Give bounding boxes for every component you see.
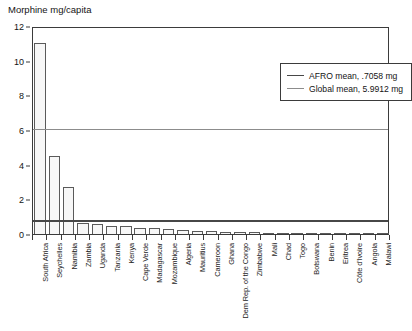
bar [220,232,231,234]
x-tick-label: Angola [371,243,379,265]
y-tick-mark [26,96,30,97]
y-tick-label: 8 [19,91,24,101]
bar [177,230,188,234]
bar [306,233,317,234]
bar [320,233,331,234]
x-tick-label: Mozambique [171,243,179,284]
bar [363,233,374,234]
x-tick-mark [175,235,176,240]
x-tick-mark [389,235,390,240]
y-tick-mark [26,131,30,132]
x-tick-mark [132,235,133,240]
x-tick-mark [146,235,147,240]
bar [163,229,174,234]
bar [291,233,302,234]
y-tick-mark [26,61,30,62]
x-tick-label: Kenya [128,243,136,263]
x-tick-label: Cape Verde [142,243,150,281]
legend-item-afro: AFRO mean, .7058 mg [287,69,403,82]
bar [34,43,45,234]
x-tick-label: South Africa [42,243,50,282]
bar [49,156,60,234]
bar [92,224,103,234]
x-tick-label: Namibia [71,243,79,269]
plot-area: AFRO mean, .7058 mg Global mean, 5.9912 … [32,27,389,235]
y-tick-label: 10 [14,57,24,67]
x-tick-mark [189,235,190,240]
x-tick-mark [103,235,104,240]
plot-inner [33,28,388,234]
y-tick-label: 6 [19,126,24,136]
global-mean-line [33,129,388,130]
afro-mean-line [33,220,388,222]
x-tick-mark [89,235,90,240]
x-axis: South AfricaSeychellesNamibiaZambiaUgand… [32,235,389,331]
x-tick-mark [32,235,33,240]
y-tick-mark [26,200,30,201]
x-tick-mark [332,235,333,240]
bar [206,231,217,234]
bar [106,226,117,234]
x-tick-mark [318,235,319,240]
y-tick-label: 4 [19,161,24,171]
bar [120,226,131,234]
x-tick-mark [246,235,247,240]
x-tick-label: Ghana [228,243,236,265]
x-tick-mark [46,235,47,240]
x-tick-mark [118,235,119,240]
x-tick-label: Mauritius [199,243,207,272]
x-tick-label: Chad [285,243,293,260]
x-tick-mark [360,235,361,240]
x-tick-label: Côte d'Ivoire [356,243,364,283]
bar [134,228,145,234]
x-tick-mark [275,235,276,240]
x-tick-label: Zambia [85,243,93,267]
bar [249,232,260,234]
x-tick-mark [303,235,304,240]
bar [77,223,88,234]
x-tick-mark [289,235,290,240]
x-tick-label: Cameroon [214,243,222,277]
bar [234,232,245,234]
y-tick-mark [26,27,30,28]
x-tick-label: Eritrea [342,243,350,264]
legend-label-global: Global mean, 5.9912 mg [309,84,403,94]
x-tick-label: Botswana [313,243,321,275]
legend-line-icon-global [287,88,304,89]
x-tick-label: Mali [271,243,279,256]
x-tick-label: Zimbabwe [256,243,264,276]
x-tick-mark [260,235,261,240]
bar [149,228,160,234]
x-tick-label: Tanzania [114,243,122,272]
bar [192,231,203,234]
bar [377,233,388,234]
y-tick-mark [26,235,30,236]
x-tick-mark [75,235,76,240]
x-tick-mark [375,235,376,240]
y-tick-label: 2 [19,195,24,205]
x-tick-label: Uganda [99,243,107,268]
x-tick-label: Benin [328,243,336,261]
y-tick-label: 0 [19,230,24,240]
x-tick-label: Dem Rep. of the Congo [242,243,250,319]
x-tick-mark [161,235,162,240]
x-tick-mark [346,235,347,240]
bar [277,233,288,234]
x-tick-mark [232,235,233,240]
y-tick-mark [26,165,30,166]
chart-title: Morphine mg/capita [8,4,91,15]
x-tick-label: Algeria [185,243,193,265]
legend-item-global: Global mean, 5.9912 mg [287,82,403,95]
bar [334,233,345,234]
bar [263,233,274,234]
x-tick-label: Madagascar [156,243,164,283]
bar [349,233,360,234]
y-axis: 024681012 [0,27,30,235]
x-tick-label: Togo [299,243,307,259]
y-tick-label: 12 [14,22,24,32]
legend: AFRO mean, .7058 mg Global mean, 5.9912 … [280,63,412,101]
x-tick-mark [61,235,62,240]
x-tick-label: Malawi [385,243,393,265]
x-tick-label: Seychelles [56,243,64,278]
